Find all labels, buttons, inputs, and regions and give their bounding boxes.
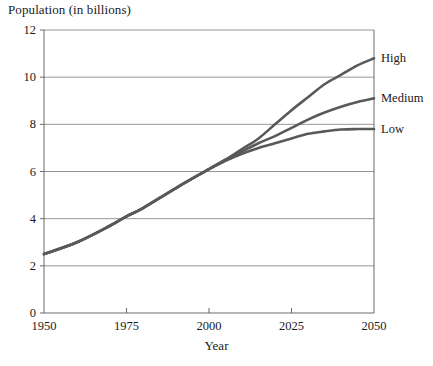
y-tick-label: 12 bbox=[2, 24, 36, 37]
series-line-low bbox=[44, 129, 374, 254]
x-tick-label: 2000 bbox=[179, 320, 239, 333]
y-tick-label: 4 bbox=[2, 213, 36, 226]
plot-area bbox=[0, 0, 433, 366]
y-tick-label: 6 bbox=[2, 166, 36, 179]
x-tick-label: 1950 bbox=[14, 320, 74, 333]
series-line-high bbox=[44, 58, 374, 254]
x-tick-label: 2050 bbox=[344, 320, 404, 333]
y-tick-label: 0 bbox=[2, 307, 36, 320]
y-tick-label: 2 bbox=[2, 260, 36, 273]
y-tick-label: 8 bbox=[2, 118, 36, 131]
population-projection-chart: Population (in billions) 024681012 19501… bbox=[0, 0, 433, 366]
x-tick-label: 1975 bbox=[97, 320, 157, 333]
gridlines bbox=[44, 30, 374, 266]
x-tick-label: 2025 bbox=[262, 320, 322, 333]
series-label-medium: Medium bbox=[381, 92, 423, 105]
x-axis-title: Year bbox=[0, 338, 433, 354]
series-label-low: Low bbox=[381, 123, 404, 136]
series-label-high: High bbox=[381, 52, 406, 65]
y-tick-label: 10 bbox=[2, 71, 36, 84]
series-line-medium bbox=[44, 98, 374, 254]
series-lines bbox=[44, 58, 374, 254]
